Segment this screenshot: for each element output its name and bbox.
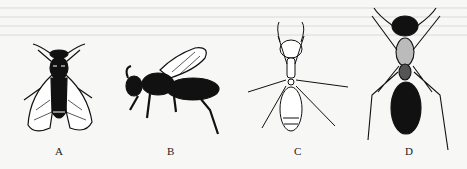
insect-c-drawing [248, 22, 348, 131]
panel-label-c: C [294, 145, 301, 157]
insect-b-drawing [126, 48, 219, 134]
panel-label-a: A [55, 145, 63, 157]
insect-drawings [0, 0, 467, 169]
insect-a-drawing [24, 44, 92, 131]
insect-d-drawing [368, 8, 448, 150]
insect-illustration: A B C D [0, 0, 467, 169]
panel-label-b: B [167, 145, 174, 157]
panel-label-d: D [405, 145, 413, 157]
